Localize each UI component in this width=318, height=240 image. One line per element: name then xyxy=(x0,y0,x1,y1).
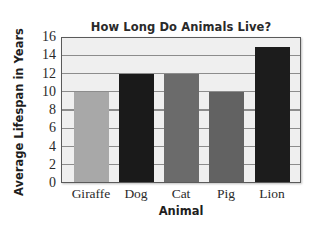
x-axis-label: Animal xyxy=(61,204,301,218)
chart-title: How Long Do Animals Live? xyxy=(61,20,301,34)
x-tick-label: Lion xyxy=(242,186,302,202)
y-axis-label: Average Lifespan in Years xyxy=(12,28,26,196)
bar-pig xyxy=(209,92,244,182)
y-tick-label: 8 xyxy=(26,103,56,117)
y-tick-label: 6 xyxy=(26,121,56,135)
plot-area xyxy=(61,37,301,183)
bar-dog xyxy=(119,74,154,182)
y-tick-label: 10 xyxy=(26,85,56,99)
y-tick-label: 0 xyxy=(26,176,56,190)
y-tick-label: 2 xyxy=(26,158,56,172)
bar-giraffe xyxy=(74,92,109,182)
bar-cat xyxy=(164,74,199,182)
y-tick-label: 14 xyxy=(26,48,56,62)
y-tick-label: 4 xyxy=(26,140,56,154)
bar-lion xyxy=(255,47,290,182)
y-tick-label: 12 xyxy=(26,67,56,81)
y-tick-label: 16 xyxy=(26,30,56,44)
